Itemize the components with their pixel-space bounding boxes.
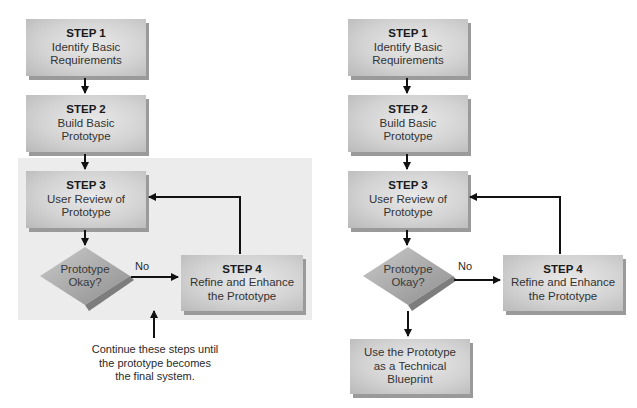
arrow-step4-loop-to-step3 (470, 197, 560, 254)
connector-arrows (0, 0, 637, 408)
arrow-step4-loop-to-step3 (149, 197, 240, 254)
